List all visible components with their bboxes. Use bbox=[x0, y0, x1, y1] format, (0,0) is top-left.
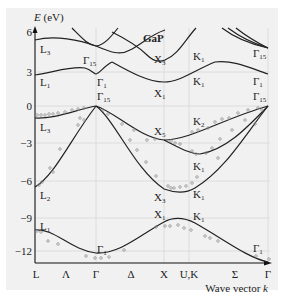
svg-text:Σ: Σ bbox=[232, 268, 238, 280]
svg-text:Δ: Δ bbox=[127, 268, 134, 280]
svg-text:L3: L3 bbox=[40, 121, 51, 135]
svg-text:L1: L1 bbox=[40, 76, 51, 90]
y-axis-label: E (eV) bbox=[33, 11, 64, 24]
svg-text:K1: K1 bbox=[193, 50, 205, 64]
svg-text:K1: K1 bbox=[193, 75, 205, 89]
svg-text:Γ: Γ bbox=[93, 268, 99, 280]
experimental-points bbox=[36, 107, 271, 261]
svg-text:−6: −6 bbox=[20, 175, 32, 187]
chart-title: GaP bbox=[143, 32, 164, 44]
svg-text:X: X bbox=[160, 268, 168, 280]
svg-text:Γ: Γ bbox=[265, 268, 271, 280]
band-structure-chart: E (eV) 6 3 0 −3 −6 −9 −12 L Λ Γ Δ X U,K … bbox=[0, 0, 283, 298]
axes bbox=[35, 30, 266, 263]
svg-text:3: 3 bbox=[27, 66, 33, 78]
svg-text:Γ15: Γ15 bbox=[253, 47, 267, 61]
svg-text:K1: K1 bbox=[193, 160, 205, 174]
svg-text:−12: −12 bbox=[15, 245, 32, 257]
x-axis-label: Wave vector k bbox=[205, 282, 269, 294]
svg-text:U,K: U,K bbox=[180, 268, 199, 280]
svg-text:6: 6 bbox=[27, 26, 33, 38]
svg-text:K1: K1 bbox=[193, 210, 205, 224]
x-tick-labels: L Λ Γ Δ X U,K Σ Γ bbox=[33, 268, 272, 280]
svg-text:L2: L2 bbox=[40, 189, 51, 203]
svg-text:K2: K2 bbox=[193, 115, 205, 129]
svg-text:Γ1: Γ1 bbox=[97, 243, 107, 257]
svg-text:Γ1: Γ1 bbox=[97, 76, 107, 90]
svg-text:Γ15: Γ15 bbox=[253, 90, 267, 104]
svg-text:L3: L3 bbox=[40, 43, 51, 57]
y-tick-labels: 6 3 0 −3 −6 −9 −12 bbox=[15, 26, 33, 257]
svg-text:L1: L1 bbox=[40, 220, 51, 234]
svg-text:Γ1: Γ1 bbox=[253, 242, 263, 256]
svg-text:−3: −3 bbox=[20, 137, 32, 149]
symmetry-point-labels: L3 Γ15 L1 Γ1 Γ15 X3 K1 Γ15 X1 K1 Γ1 Γ15 … bbox=[40, 43, 267, 257]
svg-text:Γ15: Γ15 bbox=[83, 54, 97, 68]
svg-text:K1: K1 bbox=[193, 188, 205, 202]
svg-text:Γ15: Γ15 bbox=[97, 90, 111, 104]
svg-text:Γ1: Γ1 bbox=[253, 75, 263, 89]
band-curves bbox=[35, 28, 268, 262]
svg-text:L: L bbox=[33, 268, 40, 280]
svg-text:0: 0 bbox=[27, 100, 33, 112]
svg-text:−9: −9 bbox=[20, 212, 32, 224]
svg-text:Λ: Λ bbox=[62, 268, 70, 280]
y-axis-arrow-icon bbox=[33, 26, 38, 33]
